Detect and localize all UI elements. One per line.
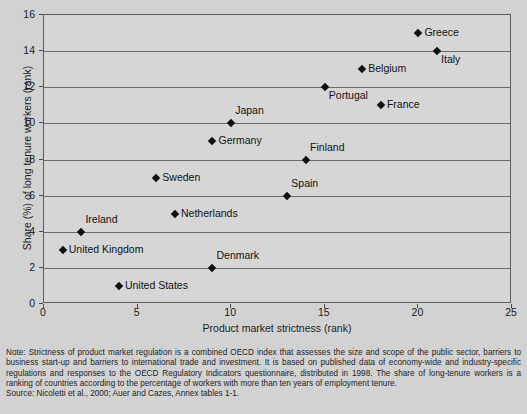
x-tick-label-25: 25 [496,307,526,318]
diamond-marker-icon [115,282,123,290]
diamond-marker-icon [302,155,310,163]
scatter-chart: GreeceItalyBelgiumPortugalFranceJapanGer… [0,0,527,345]
data-point-label: Finland [310,142,344,153]
gridline-y-2 [44,268,510,269]
y-tick-mark-6 [39,195,43,196]
diamond-marker-icon [152,173,160,181]
diamond-marker-icon [414,29,422,37]
x-tick-mark-0 [43,304,44,308]
diamond-marker-icon [377,101,385,109]
diamond-marker-icon [358,65,366,73]
data-point-label: United Kingdom [69,244,144,255]
y-tick-label-16: 16 [9,9,35,19]
data-point-label: Sweden [162,172,200,183]
y-tick-mark-4 [39,231,43,232]
diamond-marker-icon [58,246,66,254]
diamond-marker-icon [283,191,291,199]
y-tick-mark-16 [39,14,43,15]
gridline-y-8 [44,160,510,161]
diamond-marker-icon [77,228,85,236]
data-point-label: United States [125,280,188,291]
data-point-label: Netherlands [181,208,238,219]
data-point-label: France [387,99,420,110]
data-point-label: Greece [424,27,458,38]
data-point-label: Italy [441,54,460,65]
diamond-marker-icon [171,209,179,217]
footnote-block: Note: Strictness of product market regul… [6,348,521,399]
diamond-marker-icon [433,47,441,55]
x-tick-label-5: 5 [122,307,152,318]
y-tick-mark-8 [39,159,43,160]
data-point-label: Portugal [329,90,368,101]
x-tick-mark-5 [137,304,138,308]
gridline-y-6 [44,196,510,197]
data-point-label: Belgium [368,63,406,74]
footnote-note: Note: Strictness of product market regul… [6,348,521,389]
gridline-y-4 [44,232,510,233]
x-tick-mark-20 [417,304,418,308]
x-tick-mark-10 [230,304,231,308]
data-point-label: Germany [218,135,261,146]
x-tick-label-15: 15 [309,307,339,318]
figure: GreeceItalyBelgiumPortugalFranceJapanGer… [0,0,527,414]
diamond-marker-icon [208,264,216,272]
diamond-marker-icon [227,119,235,127]
x-tick-label-10: 10 [215,307,245,318]
x-tick-label-20: 20 [402,307,432,318]
x-axis-title: Product market strictness (rank) [43,322,511,334]
gridline-y-10 [44,123,510,124]
data-point-label: Spain [291,178,318,189]
plot-area: GreeceItalyBelgiumPortugalFranceJapanGer… [43,14,511,303]
diamond-marker-icon [208,137,216,145]
data-point-label: Japan [235,105,264,116]
y-tick-mark-12 [39,86,43,87]
data-point-label: Denmark [216,250,259,261]
x-tick-label-0: 0 [28,307,58,318]
y-tick-mark-10 [39,122,43,123]
gridline-y-12 [44,87,510,88]
x-tick-mark-15 [324,304,325,308]
y-tick-mark-2 [39,267,43,268]
diamond-marker-icon [321,83,329,91]
y-tick-mark-14 [39,50,43,51]
data-point-label: Ireland [85,214,117,225]
x-tick-mark-25 [511,304,512,308]
y-axis-title: Share (%) of long tenure workers (rank) [21,43,33,273]
footnote-source: Source: Nicoletti et al., 2000; Auer and… [6,389,521,399]
